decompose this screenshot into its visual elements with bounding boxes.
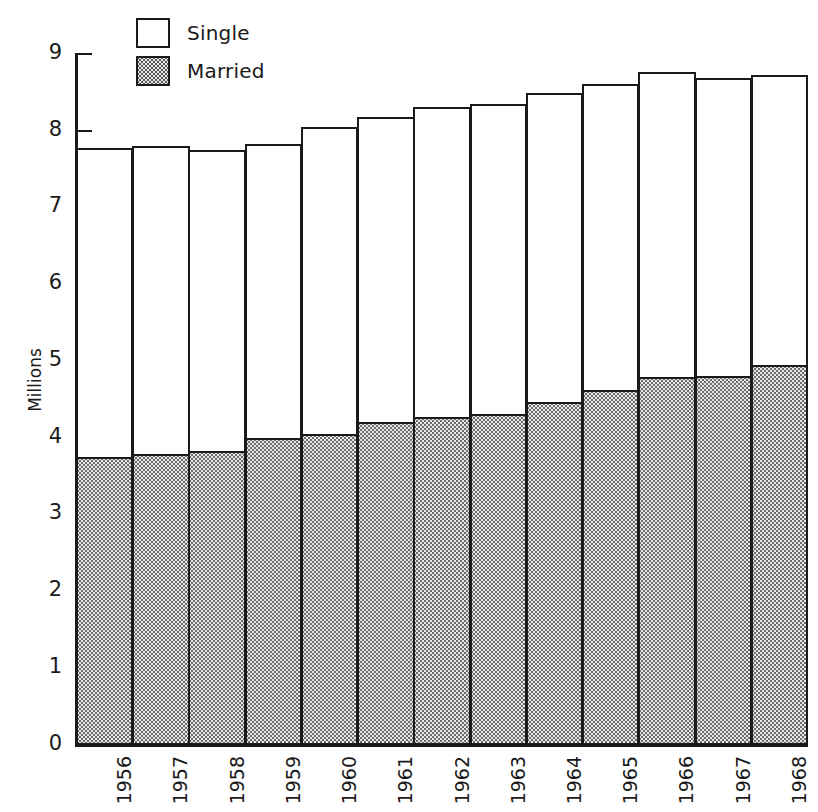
y-tick-label-5: 5 — [16, 349, 62, 370]
bar-1965 — [582, 84, 639, 745]
bar-segment-single-1958 — [188, 150, 245, 454]
bar-segment-single-1966 — [638, 72, 695, 379]
bar-segment-married-1966 — [638, 377, 695, 745]
x-tick-label-1960: 1960 — [338, 756, 360, 804]
bar-segment-married-1964 — [526, 402, 583, 745]
bar-1968 — [751, 75, 808, 745]
bar-segment-single-1967 — [695, 78, 752, 379]
legend-item-single: Single — [136, 14, 265, 52]
bar-segment-single-1961 — [357, 117, 414, 425]
bar-segment-married-1968 — [751, 365, 808, 745]
x-tick-label-1967: 1967 — [732, 756, 754, 804]
bar-segment-single-1959 — [245, 144, 302, 441]
bar-1966 — [638, 72, 695, 745]
bar-1964 — [526, 93, 583, 745]
bar-segment-married-1963 — [470, 414, 527, 745]
bar-segment-single-1960 — [301, 127, 358, 435]
bar-segment-married-1959 — [245, 438, 302, 745]
bar-segment-single-1962 — [413, 107, 470, 418]
y-tick-label-7: 7 — [16, 195, 62, 216]
bar-1958 — [188, 150, 245, 745]
bar-segment-single-1956 — [76, 148, 133, 459]
y-tick-label-3: 3 — [16, 502, 62, 523]
x-tick-label-1957: 1957 — [169, 756, 191, 804]
bar-segment-married-1961 — [357, 422, 414, 745]
x-tick-label-1956: 1956 — [113, 756, 135, 804]
x-tick-label-1968: 1968 — [788, 756, 810, 804]
bar-segment-married-1958 — [188, 451, 245, 745]
x-tick-label-1962: 1962 — [451, 756, 473, 804]
bar-1959 — [245, 144, 302, 746]
bar-1961 — [357, 117, 414, 745]
y-axis-title: Millions — [25, 320, 45, 440]
bar-segment-single-1963 — [470, 104, 527, 417]
x-tick-label-1966: 1966 — [675, 756, 697, 804]
bar-segment-married-1967 — [695, 376, 752, 745]
x-tick-label-1963: 1963 — [507, 756, 529, 804]
bar-segment-single-1957 — [132, 146, 189, 457]
bar-segment-married-1962 — [413, 417, 470, 745]
bar-segment-single-1964 — [526, 93, 583, 404]
y-tick-label-2: 2 — [16, 579, 62, 600]
legend-swatch-single-icon — [136, 18, 170, 48]
plot-area — [76, 54, 807, 745]
y-tick-label-4: 4 — [16, 426, 62, 447]
y-tick-label-8: 8 — [16, 119, 62, 140]
bar-1956 — [76, 148, 133, 745]
bar-segment-married-1957 — [132, 454, 189, 745]
chart-figure: Single Married Millions 0123456789 19561… — [0, 0, 818, 812]
x-tick-label-1964: 1964 — [563, 756, 585, 804]
x-tick-label-1958: 1958 — [226, 756, 248, 804]
bar-1957 — [132, 146, 189, 745]
bar-segment-single-1965 — [582, 84, 639, 392]
y-tick-label-1: 1 — [16, 656, 62, 677]
y-tick-label-6: 6 — [16, 272, 62, 293]
bar-1963 — [470, 104, 527, 745]
y-tick-label-9: 9 — [16, 42, 62, 63]
x-tick-label-1965: 1965 — [619, 756, 641, 804]
x-tick-label-1961: 1961 — [394, 756, 416, 804]
bar-1962 — [413, 107, 470, 745]
bar-1967 — [695, 78, 752, 745]
x-tick-label-1959: 1959 — [282, 756, 304, 804]
legend-label-single: Single — [187, 21, 250, 45]
y-tick-label-0: 0 — [16, 733, 62, 754]
bar-segment-married-1960 — [301, 434, 358, 745]
bar-1960 — [301, 127, 358, 745]
bar-segment-single-1968 — [751, 75, 808, 367]
bar-segment-married-1956 — [76, 457, 133, 745]
bar-segment-married-1965 — [582, 390, 639, 745]
